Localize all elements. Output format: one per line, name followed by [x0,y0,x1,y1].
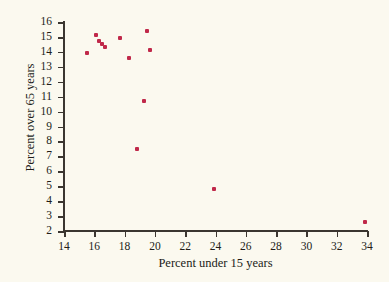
y-tick-mark [58,186,64,188]
y-tick-mark [58,112,64,114]
y-tick-mark [58,171,64,173]
plot-area [64,22,367,231]
data-point [118,36,122,40]
y-tick-mark [58,141,64,143]
y-tick-mark [58,156,64,158]
data-point [142,99,146,103]
data-point [363,220,367,224]
y-tick-mark [58,82,64,84]
y-axis-title: Percent over 65 years [23,18,38,218]
data-point [212,187,216,191]
y-tick-mark [58,201,64,203]
x-axis-title: Percent under 15 years [64,256,367,271]
x-tick-mark [216,231,218,237]
x-tick-mark [185,231,187,237]
y-tick-mark [58,67,64,69]
y-axis-title-wrap: Percent over 65 years [0,0,30,240]
y-tick-mark [58,216,64,218]
y-tick-mark [58,22,64,24]
data-point [127,56,131,60]
x-tick-mark [155,231,157,237]
data-point [145,29,149,33]
x-tick-mark [337,231,339,237]
x-tick-mark [276,231,278,237]
x-tick-mark [94,231,96,237]
data-point [103,45,107,49]
y-tick-mark [58,97,64,99]
y-tick-mark [58,127,64,129]
x-tick-mark [246,231,248,237]
data-point [135,147,139,151]
y-tick-mark [58,52,64,54]
x-tick-label: 34 [347,241,387,253]
data-point [85,51,89,55]
scatter-plot-figure: 2345678910111213141516 14161820222426283… [0,0,389,282]
x-tick-mark [367,231,369,237]
x-tick-mark [306,231,308,237]
y-tick-mark [58,37,64,39]
x-tick-mark [64,231,66,237]
data-point [94,33,98,37]
x-tick-mark [125,231,127,237]
data-point [148,48,152,52]
